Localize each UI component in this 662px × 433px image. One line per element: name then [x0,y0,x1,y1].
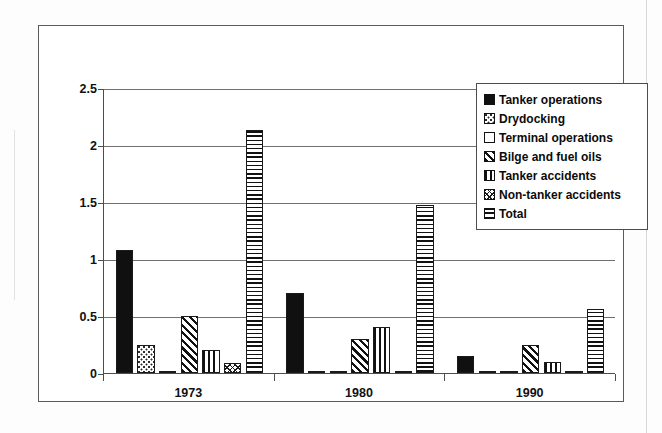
bar [116,250,133,373]
x-axis-tick [615,374,616,381]
y-axis-tick [98,89,104,90]
y-axis-tick-label: 0 [57,368,97,381]
bar [544,362,561,373]
x-axis-tick-label: 1980 [345,386,373,400]
y-axis-tick-label: 0.5 [57,311,97,324]
legend-swatch-icon [484,189,495,200]
legend-item-label: Total [499,208,527,220]
bar [479,371,496,373]
bar [565,371,582,373]
legend-swatch-icon [484,94,495,105]
legend-item-label: Bilge and fuel oils [499,151,602,163]
bar [308,371,325,373]
bar [395,371,412,373]
y-axis-tick [98,146,104,147]
x-axis-tick [444,374,445,381]
legend-item-label: Drydocking [499,113,565,125]
legend-swatch-icon [484,208,495,219]
legend-swatch-icon [484,113,495,124]
figure-root: 00.511.522.5 197319801990 Tanker operati… [0,0,662,433]
x-axis-tick-labels: 197319801990 [103,386,615,406]
legend-item-label: Tanker operations [499,94,602,106]
bar [500,371,517,373]
legend-item-label: Non-tanker accidents [499,189,621,201]
scan-edge-artifact-left [14,130,15,300]
chart-legend: Tanker operationsDrydockingTerminal oper… [476,83,648,230]
legend-item: Total [484,204,640,223]
bar [330,371,347,373]
y-axis-tick-label: 1.5 [57,197,97,210]
y-axis-tick-label: 1 [57,254,97,267]
x-axis-tick [103,374,104,381]
legend-item: Bilge and fuel oils [484,147,640,166]
bar [457,356,474,373]
bar [587,309,604,373]
y-axis-tick [98,260,104,261]
legend-swatch-icon [484,170,495,181]
y-axis-tick-label: 2 [57,140,97,153]
legend-item-label: Tanker accidents [499,170,596,182]
bar [522,345,539,374]
legend-item: Non-tanker accidents [484,185,640,204]
bar [416,205,433,373]
y-axis-tick [98,203,104,204]
y-axis-tick [98,317,104,318]
legend-swatch-icon [484,132,495,143]
category-tick-marks [103,374,615,382]
bar [181,316,198,373]
legend-swatch-icon [484,151,495,162]
y-axis-tick-label: 2.5 [57,83,97,96]
legend-item: Drydocking [484,109,640,128]
legend-item: Tanker operations [484,90,640,109]
bar [351,339,368,373]
legend-item-label: Terminal operations [499,132,613,144]
legend-item: Terminal operations [484,128,640,147]
bar [224,363,241,373]
x-axis-tick-label: 1990 [516,386,544,400]
bar [202,350,219,373]
bar [137,345,154,374]
y-axis-tick-labels: 00.511.522.5 [53,89,97,374]
x-axis-tick [274,374,275,381]
bar [373,327,390,373]
bar [246,130,263,373]
bar [286,293,303,373]
gridline [104,260,615,261]
x-axis-tick-label: 1973 [174,386,202,400]
legend-item: Tanker accidents [484,166,640,185]
chart-outer-frame: 00.511.522.5 197319801990 Tanker operati… [38,25,624,402]
bar [159,371,176,373]
